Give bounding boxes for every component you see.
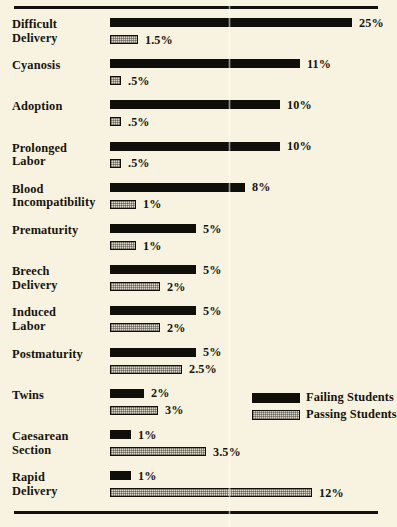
- bar-passing-students: [110, 365, 182, 374]
- bar-failing-students: [110, 100, 280, 109]
- category-label: Prematurity: [12, 224, 108, 238]
- bar-value-passing: .5%: [128, 115, 150, 130]
- bar-passing-students: [110, 76, 121, 85]
- category-label-line: Rapid: [12, 471, 108, 485]
- category-label-line: Breech: [12, 265, 108, 279]
- category-label: RapidDelivery: [12, 471, 108, 498]
- bar-value-passing: 3.5%: [213, 445, 241, 460]
- category-label-line: Cyanosis: [12, 59, 108, 73]
- category-label-line: Delivery: [12, 279, 108, 293]
- bar-line-failing: 5%: [110, 265, 396, 279]
- bar-line-passing: 2%: [110, 282, 396, 296]
- legend-item: Passing Students: [252, 407, 392, 424]
- bar-failing-students: [110, 265, 196, 274]
- category-label: CaesareanSection: [12, 430, 108, 457]
- bar-value-failing: 5%: [203, 222, 221, 237]
- bar-value-failing: 25%: [359, 16, 384, 31]
- bar-line-failing: 11%: [110, 59, 396, 73]
- category-label: Adoption: [12, 100, 108, 114]
- bar-line-failing: 5%: [110, 306, 396, 320]
- bar-value-passing: .5%: [128, 74, 150, 89]
- bar-line-passing: 1%: [110, 200, 396, 214]
- bar-line-failing: 5%: [110, 348, 396, 362]
- category-label-line: Prematurity: [12, 224, 108, 238]
- bar-line-passing: 2.5%: [110, 365, 396, 379]
- legend-label: Failing Students: [306, 390, 394, 405]
- category-label-line: Section: [12, 444, 108, 458]
- bar-passing-students: [110, 323, 160, 332]
- bar-passing-students: [110, 488, 312, 497]
- category-label-line: Caesarean: [12, 430, 108, 444]
- bar-failing-students: [110, 18, 352, 27]
- bar-value-failing: 8%: [252, 180, 270, 195]
- bar-value-failing: 5%: [203, 263, 221, 278]
- bar-passing-students: [110, 282, 160, 291]
- category-label: Twins: [12, 389, 108, 403]
- bar-value-failing: 1%: [138, 428, 156, 443]
- category-label-line: Postmaturity: [12, 348, 108, 362]
- bar-line-passing: 3.5%: [110, 447, 396, 461]
- bar-value-passing: 3%: [165, 403, 183, 418]
- chart-legend: Failing StudentsPassing Students: [252, 390, 392, 424]
- bar-value-failing: 2%: [151, 386, 169, 401]
- top-rule: [14, 6, 378, 9]
- bar-value-failing: 1%: [138, 469, 156, 484]
- bar-line-failing: 5%: [110, 224, 396, 238]
- bar-line-failing: 10%: [110, 100, 396, 114]
- bar-line-passing: .5%: [110, 117, 396, 131]
- bar-line-failing: 25%: [110, 18, 396, 32]
- bar-value-failing: 5%: [203, 304, 221, 319]
- category-label-line: Twins: [12, 389, 108, 403]
- category-label: InducedLabor: [12, 306, 108, 333]
- category-label: Cyanosis: [12, 59, 108, 73]
- category-label: ProlongedLabor: [12, 142, 108, 169]
- bar-failing-students: [110, 59, 300, 68]
- bar-line-passing: .5%: [110, 76, 396, 90]
- bar-failing-students: [110, 142, 280, 151]
- bar-value-failing: 5%: [203, 345, 221, 360]
- bar-failing-students: [110, 430, 131, 439]
- bar-passing-students: [110, 35, 138, 44]
- category-label: BreechDelivery: [12, 265, 108, 292]
- bar-passing-students: [110, 159, 121, 168]
- legend-swatch-passing: [252, 410, 300, 420]
- bar-value-passing: 2%: [167, 280, 185, 295]
- bar-passing-students: [110, 406, 158, 415]
- bar-value-passing: 1.5%: [145, 33, 173, 48]
- bar-failing-students: [110, 471, 131, 480]
- bar-passing-students: [110, 200, 136, 209]
- bar-failing-students: [110, 348, 196, 357]
- category-label-line: Difficult: [12, 18, 108, 32]
- bar-value-passing: 2.5%: [189, 362, 217, 377]
- legend-label: Passing Students: [306, 407, 397, 422]
- legend-swatch-failing: [252, 393, 300, 403]
- category-label: BloodIncompatibility: [12, 183, 108, 210]
- category-label-line: Labor: [12, 155, 108, 169]
- bar-value-passing: 1%: [143, 197, 161, 212]
- legend-item: Failing Students: [252, 390, 392, 407]
- bar-passing-students: [110, 117, 121, 126]
- category-label: DifficultDelivery: [12, 18, 108, 45]
- bar-line-failing: 10%: [110, 142, 396, 156]
- category-label-line: Induced: [12, 306, 108, 320]
- bar-line-passing: 1%: [110, 241, 396, 255]
- category-label: Postmaturity: [12, 348, 108, 362]
- bar-failing-students: [110, 389, 144, 398]
- bar-value-passing: 1%: [143, 239, 161, 254]
- bar-failing-students: [110, 224, 196, 233]
- bar-passing-students: [110, 241, 136, 250]
- bar-value-failing: 10%: [287, 98, 312, 113]
- bottom-rule: [14, 511, 378, 514]
- bar-line-passing: 1.5%: [110, 35, 396, 49]
- category-label-line: Incompatibility: [12, 196, 108, 210]
- bar-value-passing: 12%: [319, 486, 344, 501]
- bar-value-passing: .5%: [128, 156, 150, 171]
- bar-value-failing: 11%: [307, 57, 331, 72]
- category-label-line: Blood: [12, 183, 108, 197]
- category-label-line: Adoption: [12, 100, 108, 114]
- category-label-line: Prolonged: [12, 142, 108, 156]
- bar-line-passing: 2%: [110, 323, 396, 337]
- category-label-line: Labor: [12, 320, 108, 334]
- bar-line-passing: .5%: [110, 159, 396, 173]
